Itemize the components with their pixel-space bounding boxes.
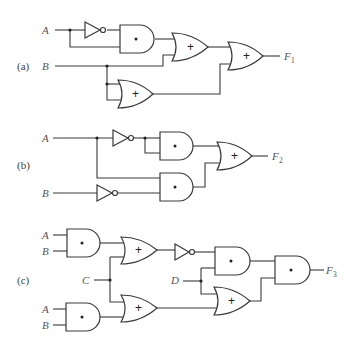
and-gate-a1 (120, 25, 154, 53)
circuit-a: (a) A B + + (17, 22, 295, 108)
and-gate-b2 (160, 173, 193, 201)
or-gate-c3: + (214, 287, 250, 315)
or-gate-c1: + (121, 237, 157, 264)
or-gate-a3: + (118, 80, 153, 108)
input-a-label: A (41, 229, 49, 241)
or-gate-c2: + (121, 295, 157, 322)
svg-text:+: + (231, 149, 238, 163)
output-f2-label: F (271, 150, 279, 162)
output-f3-label: F (325, 264, 333, 276)
input-a2-label: A (41, 303, 49, 315)
svg-text:+: + (243, 49, 250, 63)
and-gate-c4 (275, 256, 310, 284)
or-gate-a1: + (172, 33, 208, 61)
not-gate-b1 (113, 130, 134, 146)
input-d-label: D (170, 274, 179, 286)
input-b-label: B (42, 187, 49, 199)
and-gate-c3 (215, 247, 250, 275)
logic-circuit-diagram: (a) A B + + (0, 0, 350, 347)
svg-text:+: + (135, 243, 142, 257)
input-a-label: A (41, 24, 49, 36)
input-b-label: B (42, 60, 49, 72)
input-a-label: A (41, 132, 49, 144)
svg-text:+: + (228, 294, 235, 308)
not-gate-a1 (85, 22, 106, 38)
input-b-label: B (42, 245, 49, 257)
output-f3-subscript: 3 (333, 270, 337, 279)
part-label-b: (b) (17, 159, 30, 172)
svg-text:+: + (135, 301, 142, 315)
part-label-c: (c) (17, 274, 30, 287)
circuit-c: (c) A B C D A B (17, 229, 337, 331)
circuit-b: (b) A B + F (17, 130, 283, 201)
and-gate-b1 (160, 132, 193, 160)
or-gate-b1: + (217, 142, 252, 170)
not-gate-c1 (175, 244, 195, 260)
svg-text:+: + (187, 40, 194, 54)
and-gate-c2 (66, 303, 100, 331)
output-f1-label: F (283, 50, 291, 62)
svg-text:+: + (132, 87, 139, 101)
not-gate-b2 (97, 185, 118, 201)
output-f1-subscript: 1 (291, 56, 295, 65)
and-gate-c1 (67, 229, 100, 257)
part-label-a: (a) (17, 60, 30, 73)
input-b2-label: B (42, 319, 49, 331)
input-c-label: C (82, 274, 90, 286)
output-f2-subscript: 2 (279, 156, 283, 165)
or-gate-a2: + (228, 42, 263, 70)
